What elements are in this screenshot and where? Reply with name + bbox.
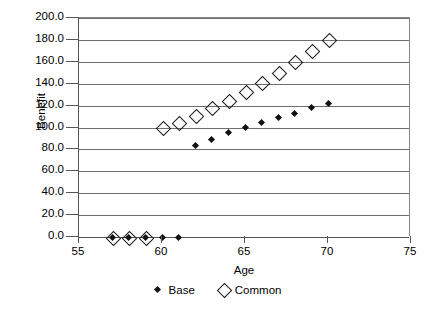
common-data-point [321, 33, 337, 49]
base-data-point [192, 141, 199, 148]
y-axis-tick-label: 160.0 [35, 55, 64, 67]
y-axis-tick [66, 170, 78, 171]
x-axis-tick-label: 55 [58, 245, 98, 257]
open-diamond-icon [217, 283, 230, 296]
filled-diamond-icon [151, 283, 164, 296]
base-data-point [275, 114, 282, 121]
y-axis-tick-label: 40.0 [42, 186, 64, 198]
x-axis-tick-label: 65 [224, 245, 264, 257]
common-data-point [305, 44, 321, 60]
base-data-point [291, 110, 298, 117]
y-axis-tick [66, 148, 78, 149]
y-axis-tick [66, 17, 78, 18]
y-axis-tick [66, 236, 78, 237]
benefit-vs-age-chart: Benefit 0.020.040.060.080.0100.0120.0140… [0, 0, 432, 318]
y-axis-tick [66, 214, 78, 215]
common-data-point [205, 101, 221, 117]
legend-entry-common[interactable]: Common [217, 283, 282, 296]
y-axis-tick-label: 140.0 [35, 77, 64, 89]
legend-label-common: Common [235, 284, 282, 296]
y-axis-tick [66, 39, 78, 40]
gridline [79, 18, 409, 19]
common-data-point [255, 76, 271, 92]
x-axis-tick-label: 75 [390, 245, 430, 257]
base-data-point [258, 118, 265, 125]
y-axis-tick-label: 180.0 [35, 33, 64, 45]
gridline [79, 84, 409, 85]
gridline [79, 106, 409, 107]
chart-legend: Base Common [0, 283, 432, 296]
common-data-point [271, 66, 287, 82]
y-axis-tick-label: 20.0 [42, 208, 64, 220]
base-data-point [225, 129, 232, 136]
x-axis-tick [244, 236, 245, 243]
gridline [79, 149, 409, 150]
base-data-point [208, 136, 215, 143]
gridline [79, 62, 409, 63]
x-axis-title: Age [78, 264, 410, 276]
y-axis-tick-label: 0.0 [48, 230, 64, 242]
base-data-point [241, 124, 248, 131]
common-data-point [155, 121, 171, 137]
x-axis-tick [78, 236, 79, 243]
gridline [79, 171, 409, 172]
plot-area [78, 17, 410, 236]
legend-entry-base[interactable]: Base [151, 283, 195, 296]
y-axis-tick [66, 192, 78, 193]
x-axis-tick [410, 236, 411, 243]
gridline [79, 40, 409, 41]
x-axis-tick-label: 60 [141, 245, 181, 257]
x-axis-tick [161, 236, 162, 243]
y-axis-tick [66, 127, 78, 128]
y-axis-tick [66, 105, 78, 106]
y-axis-tick [66, 61, 78, 62]
common-data-point [238, 85, 254, 101]
y-axis-tick-label: 100.0 [35, 121, 64, 133]
y-axis-tick [66, 83, 78, 84]
legend-label-base: Base [169, 284, 195, 296]
gridline [79, 193, 409, 194]
common-data-point [188, 109, 204, 125]
common-data-point [288, 55, 304, 71]
y-axis-tick-label: 80.0 [42, 142, 64, 154]
y-axis-tick-label: 200.0 [35, 11, 64, 23]
gridline [79, 215, 409, 216]
base-data-point [175, 233, 182, 240]
y-axis-tick-label: 120.0 [35, 99, 64, 111]
x-axis-tick [327, 236, 328, 243]
x-axis-tick-label: 70 [307, 245, 347, 257]
y-axis-tick-label: 60.0 [42, 164, 64, 176]
base-data-point [158, 233, 165, 240]
